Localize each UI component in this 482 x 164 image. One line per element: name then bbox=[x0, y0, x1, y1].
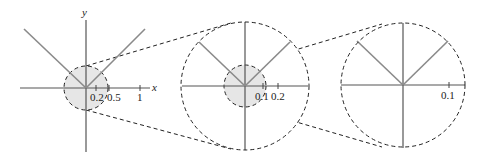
panel-3: 0.1 bbox=[341, 23, 465, 148]
tick-label-0.1: 0.1 bbox=[255, 90, 269, 102]
panel-1: 0.2 0.5 1 x y bbox=[20, 6, 157, 152]
zoom-diagram: 0.2 0.5 1 x y 0.1 0.2 0.1 bbox=[0, 0, 482, 164]
x-axis-label: x bbox=[151, 81, 157, 93]
tick-label-0.2: 0.2 bbox=[271, 90, 285, 102]
curve-left-branch bbox=[24, 29, 86, 88]
y-axis-label: y bbox=[81, 6, 87, 18]
tick-label-0.1: 0.1 bbox=[441, 89, 455, 101]
curve-right-branch bbox=[86, 29, 145, 88]
panel-2: 0.1 0.2 bbox=[181, 22, 309, 150]
tick-label-0.2: 0.2 bbox=[90, 91, 104, 103]
tick-label-0.5: 0.5 bbox=[107, 91, 121, 103]
tick-label-1: 1 bbox=[137, 91, 143, 103]
